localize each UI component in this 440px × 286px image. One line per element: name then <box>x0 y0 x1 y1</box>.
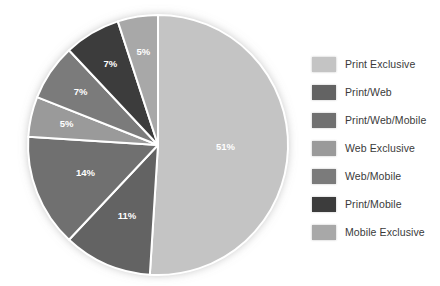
pie-slice-label: 7% <box>103 58 117 69</box>
pie-slices-group <box>28 15 288 275</box>
pie-svg: 51%11%14%5%7%7%5% <box>0 0 300 286</box>
legend-swatch-icon <box>312 225 336 240</box>
legend-swatch-icon <box>312 57 336 72</box>
legend-item-label: Web Exclusive <box>345 142 415 154</box>
legend-item-label: Print Exclusive <box>345 58 415 70</box>
legend-swatch-icon <box>312 85 336 100</box>
legend-item-label: Print/Web <box>345 86 392 98</box>
chart-legend: Print ExclusivePrint/WebPrint/Web/Mobile… <box>312 50 438 246</box>
pie-plot-area: 51%11%14%5%7%7%5% <box>0 0 300 286</box>
legend-item[interactable]: Print/Web <box>312 78 438 106</box>
legend-item[interactable]: Web/Mobile <box>312 162 438 190</box>
legend-item[interactable]: Print/Web/Mobile <box>312 106 438 134</box>
pie-slice-label: 5% <box>60 118 74 129</box>
legend-swatch-icon <box>312 169 336 184</box>
legend-item-label: Print/Mobile <box>345 198 402 210</box>
legend-item[interactable]: Mobile Exclusive <box>312 218 438 246</box>
legend-item[interactable]: Web Exclusive <box>312 134 438 162</box>
pie-slice-label: 51% <box>216 141 236 152</box>
legend-swatch-icon <box>312 113 336 128</box>
legend-item-label: Web/Mobile <box>345 170 401 182</box>
legend-item[interactable]: Print Exclusive <box>312 50 438 78</box>
legend-item-label: Print/Web/Mobile <box>345 114 426 126</box>
legend-item[interactable]: Print/Mobile <box>312 190 438 218</box>
legend-swatch-icon <box>312 141 336 156</box>
pie-slice-label: 7% <box>74 86 88 97</box>
pie-slice-label: 11% <box>118 210 137 221</box>
pie-chart-figure: 51%11%14%5%7%7%5% Print ExclusivePrint/W… <box>0 0 440 286</box>
legend-item-label: Mobile Exclusive <box>345 226 425 238</box>
pie-slice-label: 14% <box>76 167 96 178</box>
pie-slice-label: 5% <box>136 46 150 57</box>
legend-swatch-icon <box>312 197 336 212</box>
